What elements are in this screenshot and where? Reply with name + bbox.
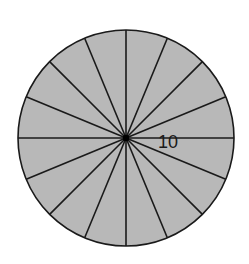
sectored-circle-diagram: 10 — [0, 0, 249, 264]
radius-label: 10 — [158, 132, 178, 152]
center-point — [123, 135, 129, 141]
